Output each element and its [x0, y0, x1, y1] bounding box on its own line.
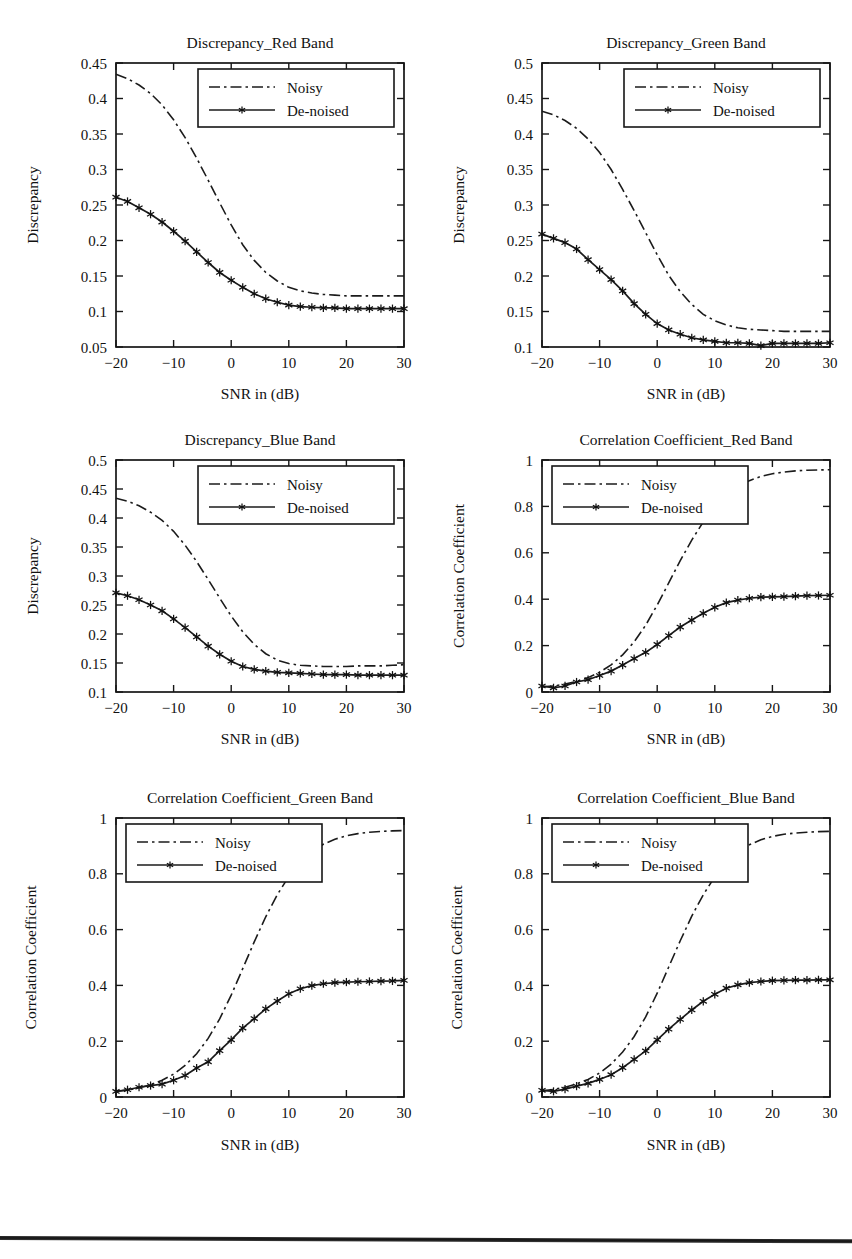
- legend-label-denoised: De-noised: [713, 103, 775, 119]
- y-tick-label: 1: [526, 811, 534, 827]
- y-tick-label: 0.3: [514, 198, 533, 214]
- y-axis-label: Discrepancy: [24, 537, 41, 615]
- x-axis-label: SNR in (dB): [647, 385, 725, 403]
- plot-discrepancy-red: Discrepancy_Red Band0.050.10.150.20.250.…: [0, 0, 426, 420]
- y-tick-label: 0.2: [514, 638, 533, 654]
- x-tick-label: 10: [707, 1105, 722, 1121]
- y-tick-label: 0: [526, 1090, 534, 1106]
- x-tick-label: 20: [765, 1105, 780, 1121]
- x-tick-label: 20: [339, 1105, 354, 1121]
- x-tick-label: −10: [588, 1105, 611, 1121]
- x-tick-label: 20: [339, 700, 354, 716]
- x-tick-label: 30: [823, 700, 838, 716]
- legend-label-denoised: De-noised: [641, 500, 703, 516]
- series-denoised-markers: [112, 976, 407, 1095]
- chart-title: Discrepancy_Green Band: [606, 34, 766, 51]
- y-tick-label: 0.4: [514, 127, 533, 143]
- x-tick-label: −20: [530, 700, 553, 716]
- legend-label-noisy: Noisy: [641, 477, 677, 493]
- x-tick-label: 0: [653, 355, 661, 371]
- x-tick-label: −10: [588, 355, 611, 371]
- y-tick-label: 0.4: [88, 978, 107, 994]
- y-tick-label: 0.2: [88, 233, 107, 249]
- x-axis-label: SNR in (dB): [647, 730, 725, 748]
- x-tick-label: −10: [162, 700, 185, 716]
- chart-title: Correlation Coefficient_Green Band: [147, 789, 373, 806]
- y-tick-label: 0.25: [507, 233, 533, 249]
- page-bottom-rule: [0, 1236, 852, 1243]
- series-denoised-markers: [538, 976, 833, 1096]
- x-tick-label: 20: [339, 355, 354, 371]
- x-tick-label: −10: [162, 1105, 185, 1121]
- y-tick-label: 0.2: [514, 1034, 533, 1050]
- chart-discrepancy-green: Discrepancy_Green Band0.10.150.20.250.30…: [426, 0, 852, 420]
- legend: NoisyDe-noised: [126, 824, 322, 882]
- plot-correlation-red: Correlation Coefficient_Red Band00.20.40…: [426, 420, 852, 760]
- legend: NoisyDe-noised: [552, 824, 748, 882]
- y-tick-label: 0.6: [514, 545, 533, 561]
- series-denoised: [116, 197, 404, 308]
- y-tick-label: 0.45: [81, 482, 107, 498]
- legend-label-noisy: Noisy: [287, 477, 323, 493]
- legend-label-denoised: De-noised: [215, 858, 277, 874]
- x-tick-label: −20: [530, 1105, 553, 1121]
- y-tick-label: 0.6: [88, 922, 107, 938]
- x-axis-label: SNR in (dB): [647, 1136, 725, 1154]
- chart-correlation-green: Correlation Coefficient_Green Band00.20.…: [0, 760, 426, 1180]
- chart-correlation-red: Correlation Coefficient_Red Band00.20.40…: [426, 420, 852, 760]
- y-tick-label: 0.35: [81, 540, 107, 556]
- y-tick-label: 0.45: [507, 91, 533, 107]
- x-tick-label: 30: [823, 355, 838, 371]
- plot-correlation-blue: Correlation Coefficient_Blue Band00.20.4…: [426, 760, 852, 1180]
- series-denoised-markers: [538, 591, 833, 692]
- x-tick-label: 0: [227, 355, 235, 371]
- y-tick-label: 0.25: [81, 598, 107, 614]
- legend-label-denoised: De-noised: [287, 103, 349, 119]
- x-tick-label: 0: [653, 1105, 661, 1121]
- y-tick-label: 0.4: [514, 978, 533, 994]
- chart-title: Correlation Coefficient_Blue Band: [577, 789, 795, 806]
- y-tick-label: 0.6: [514, 922, 533, 938]
- y-tick-label: 0.2: [514, 269, 533, 285]
- y-tick-label: 0.15: [81, 269, 107, 285]
- y-tick-label: 0.4: [514, 592, 533, 608]
- series-noisy: [542, 111, 830, 331]
- y-tick-label: 0.35: [507, 162, 533, 178]
- x-tick-label: 10: [707, 355, 722, 371]
- x-tick-label: 10: [281, 1105, 296, 1121]
- y-tick-label: 0.15: [507, 304, 533, 320]
- y-tick-label: 0.05: [81, 340, 107, 356]
- y-tick-label: 0.4: [88, 511, 107, 527]
- y-tick-label: 0.5: [514, 56, 533, 72]
- plot-discrepancy-blue: Discrepancy_Blue Band0.10.150.20.250.30.…: [0, 420, 426, 760]
- plot-correlation-green: Correlation Coefficient_Green Band00.20.…: [0, 760, 426, 1180]
- y-tick-label: 0.8: [88, 866, 107, 882]
- y-axis-label: Correlation Coefficient: [22, 885, 39, 1030]
- x-tick-label: 30: [397, 700, 412, 716]
- series-denoised: [542, 595, 830, 688]
- y-tick-label: 0.4: [88, 91, 107, 107]
- x-tick-label: 30: [397, 1105, 412, 1121]
- y-tick-label: 1: [526, 453, 534, 469]
- chart-title: Discrepancy_Blue Band: [184, 431, 335, 448]
- y-tick-label: 0.3: [88, 162, 107, 178]
- chart-correlation-blue: Correlation Coefficient_Blue Band00.20.4…: [426, 760, 852, 1180]
- y-tick-label: 0.8: [514, 499, 533, 515]
- x-tick-label: 0: [227, 1105, 235, 1121]
- y-axis-label: Correlation Coefficient: [448, 885, 465, 1030]
- y-tick-label: 0: [526, 685, 534, 701]
- series-denoised: [542, 980, 830, 1092]
- x-axis-label: SNR in (dB): [221, 1136, 299, 1154]
- y-tick-label: 0.5: [88, 453, 107, 469]
- y-tick-label: 0.15: [81, 656, 107, 672]
- plot-discrepancy-green: Discrepancy_Green Band0.10.150.20.250.30…: [426, 0, 852, 420]
- y-tick-label: 0.35: [81, 127, 107, 143]
- x-tick-label: −20: [104, 355, 127, 371]
- chart-title: Correlation Coefficient_Red Band: [579, 431, 792, 448]
- legend-label-denoised: De-noised: [641, 858, 703, 874]
- x-tick-label: −20: [104, 1105, 127, 1121]
- y-tick-label: 0.1: [88, 304, 107, 320]
- series-denoised: [542, 234, 830, 345]
- series-denoised: [116, 593, 404, 675]
- x-tick-label: 10: [281, 700, 296, 716]
